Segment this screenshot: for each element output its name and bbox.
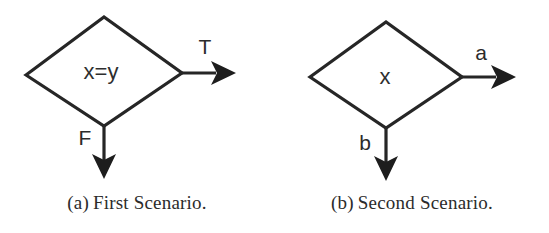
decision-label-a: x=y (84, 59, 119, 84)
subfigure-caption-a: (a)First Scenario. (0, 192, 274, 214)
figure-root: x=y T F (a)First Scenario. x a (0, 0, 549, 233)
flowchart-diagram-a: x=y T F (0, 0, 274, 190)
b-branch-label-b: b (359, 131, 371, 154)
subfigure-caption-text-a: First Scenario. (93, 192, 207, 213)
subfigure-a: x=y T F (a)First Scenario. (0, 0, 274, 233)
a-branch-label-b: a (475, 41, 487, 64)
subfigure-b: x a b (b)Second Scenario. (275, 0, 549, 233)
subfigure-caption-tag-a: (a) (67, 192, 89, 213)
true-branch-label-a: T (199, 35, 212, 58)
subfigure-caption-tag-b: (b) (331, 192, 354, 213)
decision-label-b: x (380, 64, 391, 89)
subfigure-caption-text-b: Second Scenario. (358, 192, 493, 213)
flowchart-diagram-b: x a b (275, 0, 549, 190)
subfigure-caption-b: (b)Second Scenario. (275, 192, 549, 214)
false-branch-label-a: F (79, 126, 92, 149)
